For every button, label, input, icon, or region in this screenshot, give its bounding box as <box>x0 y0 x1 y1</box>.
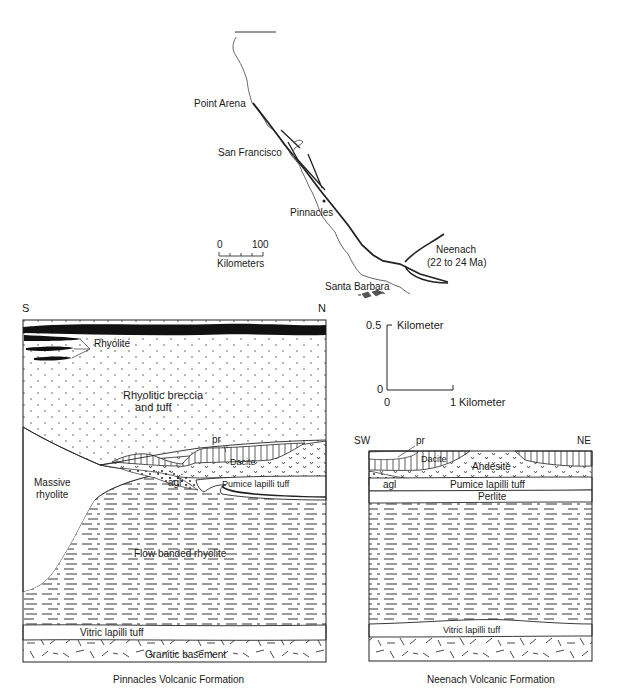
label-massive-1: Massive <box>34 477 71 488</box>
scale-unit: Kilometers <box>217 258 264 269</box>
figure: Point Arena San Francisco Pinnacles Neen… <box>0 0 617 695</box>
bay-faults <box>281 130 325 190</box>
horizontal-scale-unit: Kilometer <box>459 396 506 408</box>
pinnacles-title: Pinnacles Volcanic Formation <box>113 674 244 685</box>
vertical-scale-unit: Kilometer <box>397 319 444 331</box>
unit-rhyolite-band <box>23 324 326 335</box>
section-scale: 0.5 Kilometer 0 0 1 Kilometer <box>366 319 506 408</box>
direction-n: N <box>318 302 326 314</box>
label-agl: agl <box>168 477 181 488</box>
label-neenach-age: (22 to 24 Ma) <box>427 257 486 268</box>
label-breccia-2: and tuff <box>135 401 172 413</box>
direction-ne: NE <box>577 435 591 446</box>
horizontal-scale-origin: 0 <box>384 396 390 408</box>
unit-vitric-lapilli-tuff <box>23 625 326 640</box>
label-breccia-1: Rhyolitic breccia <box>123 389 204 401</box>
label-vitric-neenach: Vitric lapilli tuff <box>443 625 501 635</box>
label-santa-barbara: Santa Barbara <box>325 281 390 292</box>
horizontal-scale-max: 1 <box>450 396 456 408</box>
label-san-francisco: San Francisco <box>218 147 282 158</box>
map-scale-bar: 0 100 Kilometers <box>217 239 269 269</box>
label-vitric: Vitric lapilli tuff <box>80 627 144 638</box>
pinnacles-marker <box>323 200 326 203</box>
label-granitic: Granitic basement <box>145 649 226 660</box>
label-andesite: Andesite <box>472 461 511 472</box>
direction-s: S <box>22 302 29 314</box>
label-pinnacles: Pinnacles <box>290 207 333 218</box>
scale-min: 0 <box>217 239 223 250</box>
unit-flow-banded-neenach <box>369 503 592 621</box>
coastline <box>233 37 410 294</box>
label-rhyolite: Rhyolite <box>94 338 131 349</box>
label-pr-neenach: pr <box>416 435 426 446</box>
location-map: Point Arena San Francisco Pinnacles Neen… <box>194 32 486 298</box>
neenach-title: Neenach Volcanic Formation <box>427 674 555 685</box>
pinnacles-cross-section: S N Rhyolite <box>22 302 326 685</box>
san-andreas-fault <box>253 103 448 282</box>
vertical-scale-max: 0.5 <box>366 319 381 331</box>
label-perlite: Perlite <box>478 491 507 502</box>
label-pr: pr <box>212 434 222 445</box>
label-agl-neenach: agl <box>383 479 396 490</box>
label-neenach: Neenach <box>436 244 476 255</box>
label-dacite-neenach: Dacite <box>421 454 447 464</box>
direction-sw: SW <box>354 435 371 446</box>
scale-max: 100 <box>252 239 269 250</box>
label-point-arena: Point Arena <box>194 98 246 109</box>
label-pumice-neenach: Pumice lapilli tuff <box>450 479 525 490</box>
label-massive-2: rhyolite <box>36 489 69 500</box>
label-dacite: Dacite <box>230 457 256 467</box>
vertical-scale-origin: 0 <box>377 383 383 395</box>
label-pumice: Pumice lapilli tuff <box>222 479 290 489</box>
label-flow-banded: Flow banded rhyolite <box>134 548 227 559</box>
neenach-cross-section: SW NE pr Dacite Andesite agl Pumice lapi… <box>354 435 592 685</box>
unit-granitic-neenach <box>369 637 592 661</box>
